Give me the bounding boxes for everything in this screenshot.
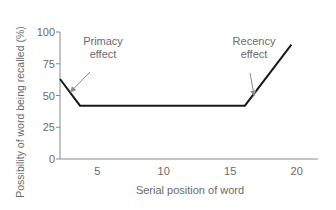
- annotations: PrimacyeffectRecencyeffect: [71, 35, 276, 96]
- serial-position-chart: 0255075100 5101520 PrimacyeffectRecencye…: [0, 0, 336, 210]
- x-axis-ticks: 5101520: [94, 165, 303, 177]
- y-tick-label: 100: [37, 26, 55, 38]
- y-tick-label: 50: [43, 90, 55, 102]
- x-tick-label: 15: [224, 165, 236, 177]
- x-axis-label: Serial position of word: [136, 184, 244, 196]
- primacy-effect-annotation: Primacyeffect: [71, 35, 124, 92]
- annotation-arrow-icon: [250, 73, 254, 96]
- y-tick-label: 75: [43, 58, 55, 70]
- y-axis-label: Possibility of word being recalled (%): [14, 26, 26, 198]
- svg-text:Recency: Recency: [233, 35, 276, 47]
- annotation-arrow-icon: [71, 72, 90, 92]
- y-tick-label: 25: [43, 121, 55, 133]
- x-tick-label: 10: [158, 165, 170, 177]
- svg-text:Primacy: Primacy: [83, 35, 123, 47]
- y-axis-ticks: 0255075100: [37, 26, 60, 165]
- recency-effect-annotation: Recencyeffect: [233, 35, 276, 96]
- svg-text:effect: effect: [90, 48, 117, 60]
- y-tick-label: 0: [49, 153, 55, 165]
- x-tick-label: 20: [291, 165, 303, 177]
- x-tick-label: 5: [94, 165, 100, 177]
- svg-text:effect: effect: [241, 48, 268, 60]
